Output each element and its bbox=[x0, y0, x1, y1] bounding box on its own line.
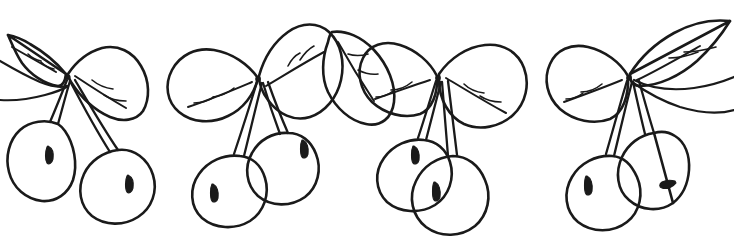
artwork-canvas bbox=[0, 0, 734, 244]
branch-junction-1 bbox=[65, 74, 70, 79]
drawing-background bbox=[0, 0, 734, 244]
cherry-border-drawing bbox=[0, 0, 734, 244]
branch-junction-2 bbox=[255, 76, 261, 82]
